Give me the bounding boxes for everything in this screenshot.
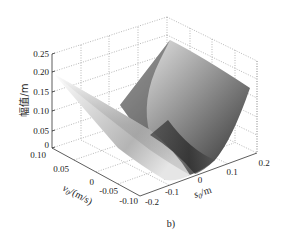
s-tick: 0.2 [258, 158, 269, 168]
v-tick: 0 [90, 177, 95, 187]
s-tick: -0.1 [165, 187, 179, 197]
amplitude-surface [54, 40, 250, 180]
v-tick: 0.05 [53, 164, 69, 174]
z-tick: 0.10 [33, 106, 49, 116]
z-tick: 0 [45, 140, 50, 150]
v-tick: 0.10 [30, 150, 46, 160]
z-tick: 0.20 [33, 67, 49, 77]
s-axis-label: s0/m [192, 184, 213, 202]
s-tick: -0.2 [145, 197, 159, 207]
v-tick: -0.10 [119, 196, 138, 206]
z-tick: 0.25 [33, 49, 49, 59]
surface-plot: 0.25 0.20 0.15 0.10 0.05 0 幅值/m 0.10 0.0… [0, 0, 283, 244]
s-tick: 0 [198, 175, 203, 185]
z-tick: 0.05 [33, 126, 49, 136]
z-axis-label: 幅值/m [18, 83, 30, 116]
z-tick-labels: 0.25 0.20 0.15 0.10 0.05 0 [33, 49, 49, 150]
z-tick: 0.15 [33, 87, 49, 97]
s-tick: 0.1 [226, 167, 237, 177]
v-tick: -0.05 [99, 186, 118, 196]
svg-text:s0/m: s0/m [192, 184, 213, 202]
figure-caption: b) [167, 218, 175, 230]
